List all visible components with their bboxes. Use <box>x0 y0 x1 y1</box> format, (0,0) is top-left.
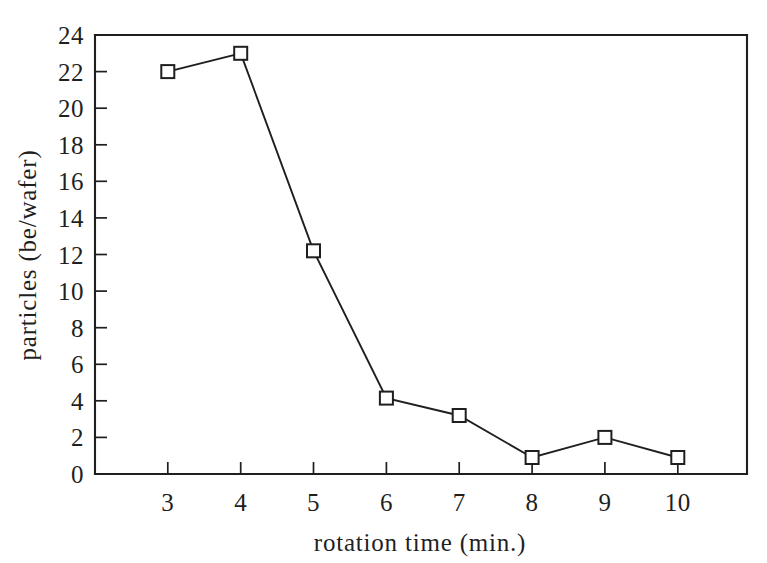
x-tick-label-5: 5 <box>307 489 320 516</box>
y-tick-label-24: 24 <box>58 22 84 49</box>
y-axis-title: particles (be/wafer) <box>14 149 42 360</box>
x-tick-label-8: 8 <box>526 489 539 516</box>
y-tick-label-2: 2 <box>71 424 84 451</box>
series-markers <box>161 47 684 464</box>
y-tick-label-22: 22 <box>58 59 84 86</box>
y-tick-label-14: 14 <box>58 205 84 232</box>
x-tick-label-10: 10 <box>665 489 691 516</box>
y-axis-ticks <box>95 35 107 474</box>
figure-container: 0 2 4 6 8 10 12 14 16 18 20 22 24 3 4 5 … <box>0 0 767 563</box>
y-tick-label-16: 16 <box>58 168 84 195</box>
series-line-particles <box>168 53 678 457</box>
x-tick-label-9: 9 <box>598 489 611 516</box>
x-tick-label-4: 4 <box>234 489 247 516</box>
data-series-particles <box>161 47 684 464</box>
x-tick-label-3: 3 <box>161 489 174 516</box>
data-point-marker-9[interactable] <box>598 431 611 444</box>
y-tick-label-4: 4 <box>71 388 84 415</box>
plot-frame <box>95 35 747 474</box>
y-tick-label-18: 18 <box>58 132 84 159</box>
x-axis-ticks <box>168 462 678 474</box>
y-tick-label-6: 6 <box>71 351 84 378</box>
x-tick-label-7: 7 <box>453 489 466 516</box>
x-tick-label-6: 6 <box>380 489 393 516</box>
chart-canvas: 0 2 4 6 8 10 12 14 16 18 20 22 24 3 4 5 … <box>0 0 767 563</box>
data-point-marker-8[interactable] <box>526 451 539 464</box>
y-tick-label-12: 12 <box>58 242 84 269</box>
y-tick-label-10: 10 <box>58 278 84 305</box>
y-tick-label-20: 20 <box>58 95 84 122</box>
y-axis-tick-labels: 0 2 4 6 8 10 12 14 16 18 20 22 24 <box>58 22 84 488</box>
data-point-marker-10[interactable] <box>671 451 684 464</box>
x-axis-title: rotation time (min.) <box>314 529 526 557</box>
data-point-marker-6[interactable] <box>380 392 393 405</box>
data-point-marker-4[interactable] <box>234 47 247 60</box>
y-tick-label-0: 0 <box>71 461 84 488</box>
data-point-marker-3[interactable] <box>161 65 174 78</box>
data-point-marker-5[interactable] <box>307 244 320 257</box>
x-axis-tick-labels: 3 4 5 6 7 8 9 10 <box>161 489 691 516</box>
y-tick-label-8: 8 <box>71 315 84 342</box>
data-point-marker-7[interactable] <box>453 409 466 422</box>
